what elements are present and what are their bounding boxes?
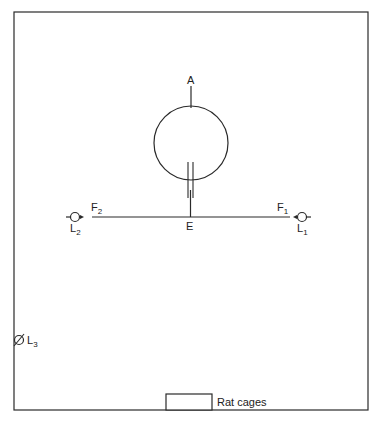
central-chamber-circle xyxy=(154,106,228,180)
rat-cages-label: Rat cages xyxy=(217,396,267,408)
light-l3-icon xyxy=(14,334,24,346)
apparatus-diagram: A E F2 F1 L2 L1 L3 Rat cages xyxy=(0,0,376,424)
label-l2: L2 xyxy=(70,222,81,237)
label-l3: L3 xyxy=(27,334,38,349)
rat-cages-box xyxy=(166,394,212,410)
light-l1-icon xyxy=(293,213,311,222)
label-a: A xyxy=(187,74,195,86)
label-e: E xyxy=(186,220,193,232)
label-f2: F2 xyxy=(91,201,103,216)
light-l2-icon xyxy=(66,213,84,222)
label-l1: L1 xyxy=(297,222,308,237)
label-f1: F1 xyxy=(277,201,289,216)
